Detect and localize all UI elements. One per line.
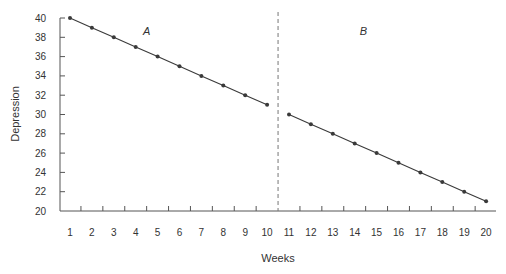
x-axis-title: Weeks xyxy=(261,252,295,264)
data-point xyxy=(134,45,138,49)
y-tick-label: 34 xyxy=(35,70,47,81)
x-tick-label: 19 xyxy=(459,227,471,238)
data-point xyxy=(178,64,182,68)
x-tick-label: 13 xyxy=(327,227,339,238)
y-tick-label: 28 xyxy=(35,128,47,139)
x-tick-label: 12 xyxy=(305,227,317,238)
data-point xyxy=(309,122,313,126)
x-tick-label: 20 xyxy=(481,227,493,238)
y-axis: 2022242628303234363840 xyxy=(35,13,65,217)
data-point xyxy=(243,93,247,97)
x-tick-label: 5 xyxy=(155,227,161,238)
y-axis-title: Depression xyxy=(9,86,21,142)
data-point xyxy=(375,151,379,155)
y-tick-label: 36 xyxy=(35,51,47,62)
data-point xyxy=(199,74,203,78)
x-tick-label: 14 xyxy=(349,227,361,238)
y-tick-label: 30 xyxy=(35,109,47,120)
y-tick-label: 20 xyxy=(35,206,47,217)
x-tick-label: 11 xyxy=(284,227,295,238)
y-tick-label: 26 xyxy=(35,148,47,159)
x-tick-label: 6 xyxy=(177,227,183,238)
x-tick-label: 1 xyxy=(67,227,73,238)
series-line-b xyxy=(289,115,486,202)
data-point xyxy=(287,113,291,117)
x-tick-label: 4 xyxy=(133,227,139,238)
data-point xyxy=(440,180,444,184)
data-point xyxy=(484,199,488,203)
x-tick-label: 16 xyxy=(393,227,405,238)
data-point xyxy=(265,103,269,107)
x-tick-label: 18 xyxy=(437,227,449,238)
x-tick-label: 3 xyxy=(111,227,117,238)
x-tick-label: 10 xyxy=(262,227,274,238)
phase-label-b: B xyxy=(360,25,367,37)
y-tick-label: 32 xyxy=(35,90,47,101)
x-tick-label: 9 xyxy=(242,227,248,238)
x-tick-label: 2 xyxy=(89,227,95,238)
line-chart: 2022242628303234363840 12345678910111213… xyxy=(0,0,506,274)
x-tick-label: 15 xyxy=(371,227,383,238)
y-tick-label: 38 xyxy=(35,32,47,43)
data-point xyxy=(90,26,94,30)
y-tick-label: 24 xyxy=(35,167,47,178)
data-point xyxy=(68,16,72,20)
data-point xyxy=(462,190,466,194)
data-point xyxy=(221,84,225,88)
series-line-a xyxy=(70,18,267,105)
x-tick-label: 17 xyxy=(415,227,427,238)
data-point xyxy=(397,161,401,165)
data-point xyxy=(353,141,357,145)
data-point xyxy=(418,170,422,174)
y-tick-label: 40 xyxy=(35,13,47,24)
phase-labels: AB xyxy=(142,25,367,37)
data-point xyxy=(156,55,160,59)
y-tick-label: 22 xyxy=(35,186,47,197)
data-point xyxy=(331,132,335,136)
data-point xyxy=(112,35,116,39)
phase-label-a: A xyxy=(142,25,150,37)
x-tick-label: 8 xyxy=(221,227,227,238)
x-tick-label: 7 xyxy=(199,227,205,238)
